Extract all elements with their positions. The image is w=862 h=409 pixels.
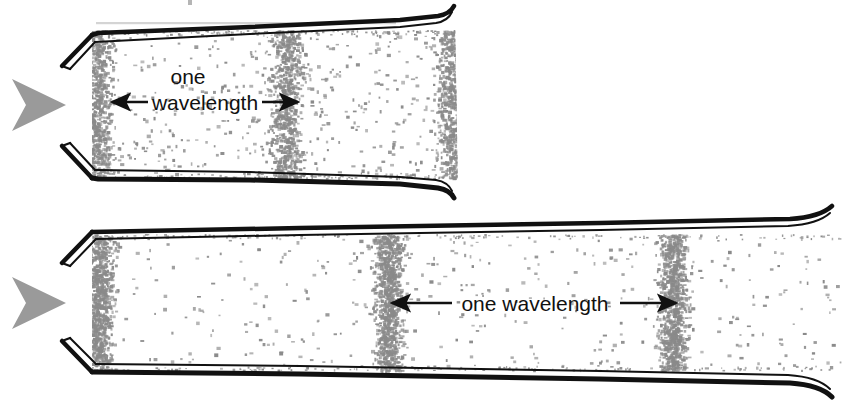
top-tube-particles [90,30,461,181]
bottom-panel: one wavelength [12,206,841,397]
top-wavelength-label-line2: wavelength [151,91,258,114]
sound-source-arrow-top [12,79,66,131]
bottom-tube-wall-upper [62,206,832,266]
figure-canvas: one wavelength [0,0,862,409]
top-wavelength-label-line1: one [170,65,205,88]
sound-wave-figure: one wavelength [0,0,862,409]
sound-source-arrow-bottom [12,277,66,329]
bottom-tube-wall-lower [62,338,832,397]
bottom-wavelength-annotation: one wavelength [392,292,676,315]
bottom-wavelength-label: one wavelength [461,292,608,315]
top-panel: one wavelength [12,0,461,198]
top-tube-wall-lower [62,143,454,198]
